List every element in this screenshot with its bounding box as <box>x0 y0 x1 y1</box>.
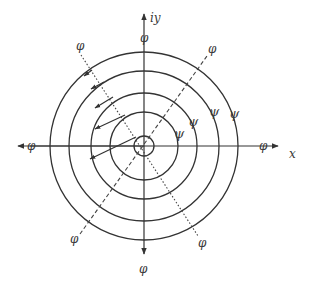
phi-label-bottom-left: φ <box>70 232 79 246</box>
y-axis-label: iy <box>150 11 161 25</box>
psi-label-1: ψ <box>174 126 185 141</box>
psi-label-2: ψ <box>188 114 199 129</box>
psi-label-3: ψ <box>209 104 220 119</box>
gradient-arrow-5 <box>90 137 136 159</box>
potential-flow-diagram: iy x φ φ φ φ φ φ φ φ ψ ψ ψ ψ <box>0 0 312 287</box>
phi-label-right: φ <box>259 139 268 153</box>
phi-label-top: φ <box>140 31 149 45</box>
axes <box>18 14 278 254</box>
gradient-arrow-3 <box>95 97 113 108</box>
phi-label-bottom: φ <box>139 262 148 276</box>
phi-label-bottom-right: φ <box>198 236 207 250</box>
phi-label-left: φ <box>27 139 36 153</box>
phi-label-top-right: φ <box>208 42 217 56</box>
psi-label-4: ψ <box>229 106 240 121</box>
x-axis-label: x <box>289 147 296 161</box>
phi-label-top-left: φ <box>76 39 85 53</box>
